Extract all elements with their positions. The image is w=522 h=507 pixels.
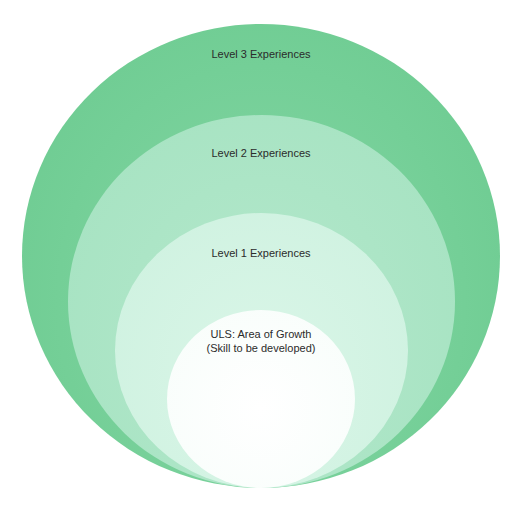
core-label-line2: (Skill to be developed) bbox=[0, 341, 522, 355]
core-label: ULS: Area of Growth (Skill to be develop… bbox=[0, 327, 522, 355]
level-3-label: Level 3 Experiences bbox=[0, 47, 522, 61]
core-label-line1: ULS: Area of Growth bbox=[0, 327, 522, 341]
level-1-label: Level 1 Experiences bbox=[0, 246, 522, 260]
level-2-label: Level 2 Experiences bbox=[0, 146, 522, 160]
